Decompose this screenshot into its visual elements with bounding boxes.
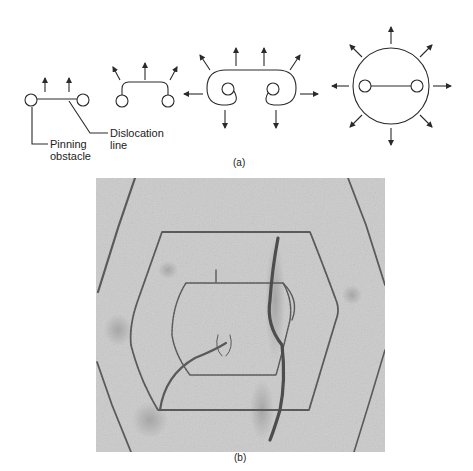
arrow-se xyxy=(420,115,432,127)
panel-a-caption: (a) xyxy=(233,157,245,168)
stage-3-wrapping xyxy=(184,48,318,128)
pinning-obstacle-left xyxy=(25,94,37,106)
label-line: Dislocation xyxy=(110,127,164,139)
panel-b-caption: (b) xyxy=(234,452,246,463)
arrow-upright xyxy=(170,67,177,80)
pinning-obstacle-left xyxy=(222,83,234,95)
stage-1-straight-line xyxy=(25,78,108,144)
stage-4-closed-loop xyxy=(332,27,451,145)
arrow-ne xyxy=(420,45,432,57)
stage-2-bowing xyxy=(113,63,177,107)
dislocation-line xyxy=(122,82,168,95)
arrow-nw xyxy=(350,45,362,57)
pinning-obstacle-left xyxy=(359,80,371,92)
pinning-obstacle-right xyxy=(77,94,89,106)
arrow-upleft xyxy=(200,55,210,70)
arrow-upleft xyxy=(113,67,120,80)
pinning-obstacle-right xyxy=(162,95,174,107)
pinning-leader xyxy=(32,107,48,144)
pinning-obstacle-right xyxy=(267,83,279,95)
label-line: obstacle xyxy=(50,150,91,162)
dislocation-line-label: Dislocation line xyxy=(110,127,164,151)
pinning-obstacle-right xyxy=(411,80,423,92)
pinning-obstacle-label: Pinning obstacle xyxy=(50,138,91,162)
arrow-upright xyxy=(290,55,300,70)
panel-b-micrograph xyxy=(96,178,385,452)
dislocation-loop xyxy=(207,70,296,105)
dislocation-leader xyxy=(69,101,108,133)
pinning-obstacle-left xyxy=(116,95,128,107)
label-line: line xyxy=(110,139,164,151)
frank-read-source-figure: Pinning obstacle Dislocation line (a) xyxy=(0,0,473,471)
arrow-sw xyxy=(350,115,362,127)
label-line: Pinning xyxy=(50,138,91,150)
